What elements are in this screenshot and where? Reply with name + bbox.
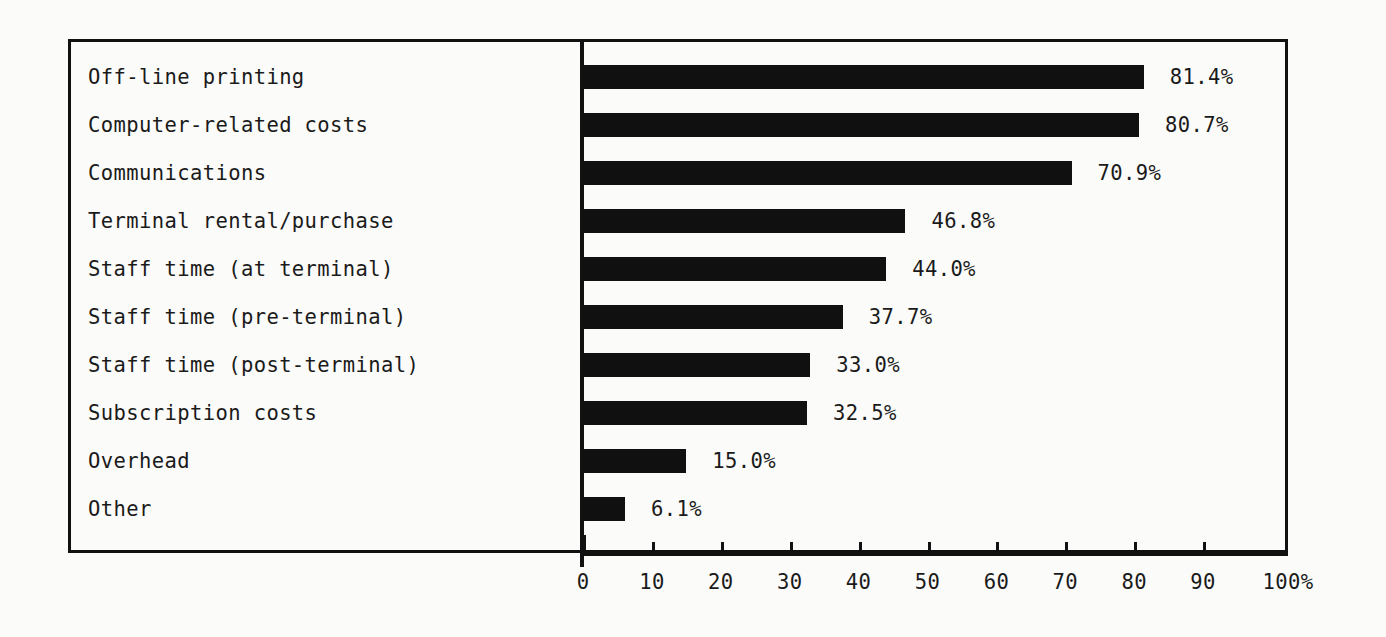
x-axis-tick-label: 70 (1053, 570, 1078, 594)
x-axis-tick-label: 40 (846, 570, 871, 594)
category-label-row: Staff time (pre-terminal) (88, 293, 407, 341)
x-axis-tick (859, 542, 862, 554)
plot-area: 81.4%80.7%70.9%46.8%44.0%37.7%33.0%32.5%… (583, 39, 1288, 553)
bar (583, 209, 905, 233)
bar (583, 113, 1139, 137)
x-axis-tick-label: 0 (577, 570, 590, 594)
bar-value-label: 80.7% (1165, 113, 1229, 137)
category-label: Computer-related costs (88, 113, 368, 137)
category-label-row: Other (88, 485, 152, 533)
x-axis-tick (928, 542, 931, 554)
bar-row: 70.9% (583, 149, 1288, 197)
x-axis-tick (1134, 542, 1137, 554)
x-axis-tick (790, 542, 793, 554)
x-axis-tick (1065, 542, 1068, 554)
bar-row: 6.1% (583, 485, 1288, 533)
bar-value-label: 6.1% (651, 497, 702, 521)
x-axis-tick-label: 10 (639, 570, 664, 594)
bar-row: 80.7% (583, 101, 1288, 149)
category-label: Staff time (post-terminal) (88, 353, 419, 377)
category-label-row: Off-line printing (88, 53, 305, 101)
bar-value-label: 70.9% (1098, 161, 1162, 185)
bar (583, 449, 686, 473)
bar-row: 81.4% (583, 53, 1288, 101)
bar-value-label: 46.8% (931, 209, 995, 233)
x-axis-tick-label: 100% (1263, 570, 1314, 594)
category-label-row: Staff time (at terminal) (88, 245, 394, 293)
x-axis-tick (583, 535, 586, 554)
bar (583, 353, 810, 377)
x-axis-tick-label: 90 (1190, 570, 1215, 594)
x-axis-tick-label: 30 (777, 570, 802, 594)
category-label-row: Staff time (post-terminal) (88, 341, 419, 389)
category-label: Communications (88, 161, 266, 185)
bar-row: 15.0% (583, 437, 1288, 485)
x-axis (583, 553, 1288, 567)
category-label-row: Terminal rental/purchase (88, 197, 394, 245)
bar-value-label: 44.0% (912, 257, 976, 281)
bar (583, 161, 1072, 185)
bar (583, 65, 1144, 89)
x-axis-tick (996, 542, 999, 554)
bar-row: 46.8% (583, 197, 1288, 245)
bar (583, 497, 625, 521)
bar-value-label: 15.0% (712, 449, 776, 473)
x-axis-tick-label: 80 (1121, 570, 1146, 594)
x-axis-tick (1203, 542, 1206, 554)
x-axis-tick-label: 60 (984, 570, 1009, 594)
category-label: Overhead (88, 449, 190, 473)
category-label-row: Computer-related costs (88, 101, 368, 149)
bar-value-label: 33.0% (836, 353, 900, 377)
bar-row: 37.7% (583, 293, 1288, 341)
bar-row: 33.0% (583, 341, 1288, 389)
bar-value-label: 37.7% (869, 305, 933, 329)
category-label: Subscription costs (88, 401, 317, 425)
category-label-column: Off-line printingComputer-related costsC… (88, 39, 568, 553)
category-label: Other (88, 497, 152, 521)
bar-row: 44.0% (583, 245, 1288, 293)
category-label: Staff time (pre-terminal) (88, 305, 407, 329)
category-label: Off-line printing (88, 65, 305, 89)
bar-row: 32.5% (583, 389, 1288, 437)
category-label: Staff time (at terminal) (88, 257, 394, 281)
category-label-row: Communications (88, 149, 266, 197)
category-label-row: Subscription costs (88, 389, 317, 437)
category-label-row: Overhead (88, 437, 190, 485)
x-axis-tick (652, 542, 655, 554)
chart-page: Off-line printingComputer-related costsC… (0, 0, 1386, 637)
x-axis-line (583, 553, 1288, 556)
x-axis-tick (721, 542, 724, 554)
bar (583, 305, 843, 329)
x-axis-tick-label: 50 (915, 570, 940, 594)
bar (583, 401, 807, 425)
x-tick-label-row: 0102030405060708090100% (583, 570, 1343, 604)
x-axis-tick-label: 20 (708, 570, 733, 594)
category-label: Terminal rental/purchase (88, 209, 394, 233)
bar-value-label: 32.5% (833, 401, 897, 425)
bar (583, 257, 886, 281)
bar-value-label: 81.4% (1170, 65, 1234, 89)
